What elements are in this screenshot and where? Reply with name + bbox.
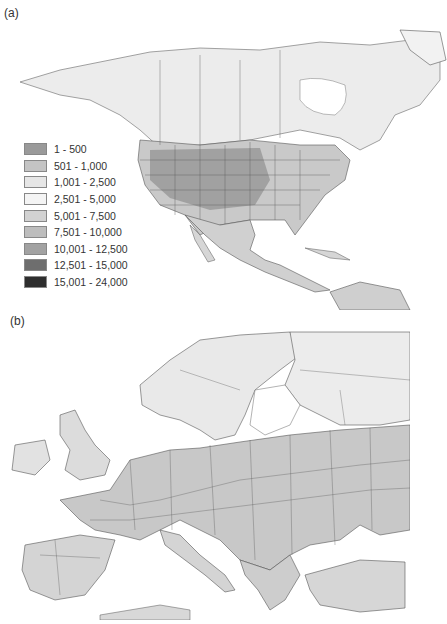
europe-map <box>0 330 410 620</box>
legend-swatch <box>24 160 47 172</box>
map-legend: 1 - 500 501 - 1,000 1,001 - 2,500 2,501 … <box>24 141 128 290</box>
legend-swatch <box>24 176 47 188</box>
legend-item: 5,001 - 7,500 <box>24 207 128 224</box>
south-america-tip <box>330 282 410 310</box>
legend-label: 1 - 500 <box>54 143 87 155</box>
canada-alaska-landmass <box>20 40 440 150</box>
legend-label: 12,501 - 15,000 <box>54 259 128 271</box>
great-britain <box>60 410 110 480</box>
legend-swatch <box>24 276 47 288</box>
legend-swatch <box>24 143 47 155</box>
legend-item: 12,501 - 15,000 <box>24 257 128 274</box>
finland-russia-north <box>285 332 410 425</box>
iberian-peninsula <box>22 535 115 600</box>
legend-swatch <box>24 259 47 271</box>
ireland <box>12 440 50 475</box>
legend-item: 2,501 - 5,000 <box>24 191 128 208</box>
legend-label: 501 - 1,000 <box>54 160 107 172</box>
legend-swatch <box>24 243 47 255</box>
legend-item: 7,501 - 10,000 <box>24 224 128 241</box>
legend-label: 1,001 - 2,500 <box>54 176 116 188</box>
legend-label: 15,001 - 24,000 <box>54 276 128 288</box>
legend-swatch <box>24 210 47 222</box>
legend-item: 15,001 - 24,000 <box>24 274 128 291</box>
legend-label: 2,501 - 5,000 <box>54 193 116 205</box>
legend-label: 7,501 - 10,000 <box>54 226 122 238</box>
caribbean-islands <box>305 248 350 260</box>
legend-label: 10,001 - 12,500 <box>54 243 128 255</box>
panel-label-b: (b) <box>10 314 25 328</box>
legend-item: 1 - 500 <box>24 141 128 158</box>
panel-label-a: (a) <box>4 6 19 20</box>
legend-swatch <box>24 226 47 238</box>
legend-item: 501 - 1,000 <box>24 158 128 175</box>
legend-label: 5,001 - 7,500 <box>54 210 116 222</box>
turkey <box>305 560 405 612</box>
legend-item: 10,001 - 12,500 <box>24 241 128 258</box>
legend-item: 1,001 - 2,500 <box>24 174 128 191</box>
legend-swatch <box>24 193 47 205</box>
north-africa <box>100 605 190 620</box>
